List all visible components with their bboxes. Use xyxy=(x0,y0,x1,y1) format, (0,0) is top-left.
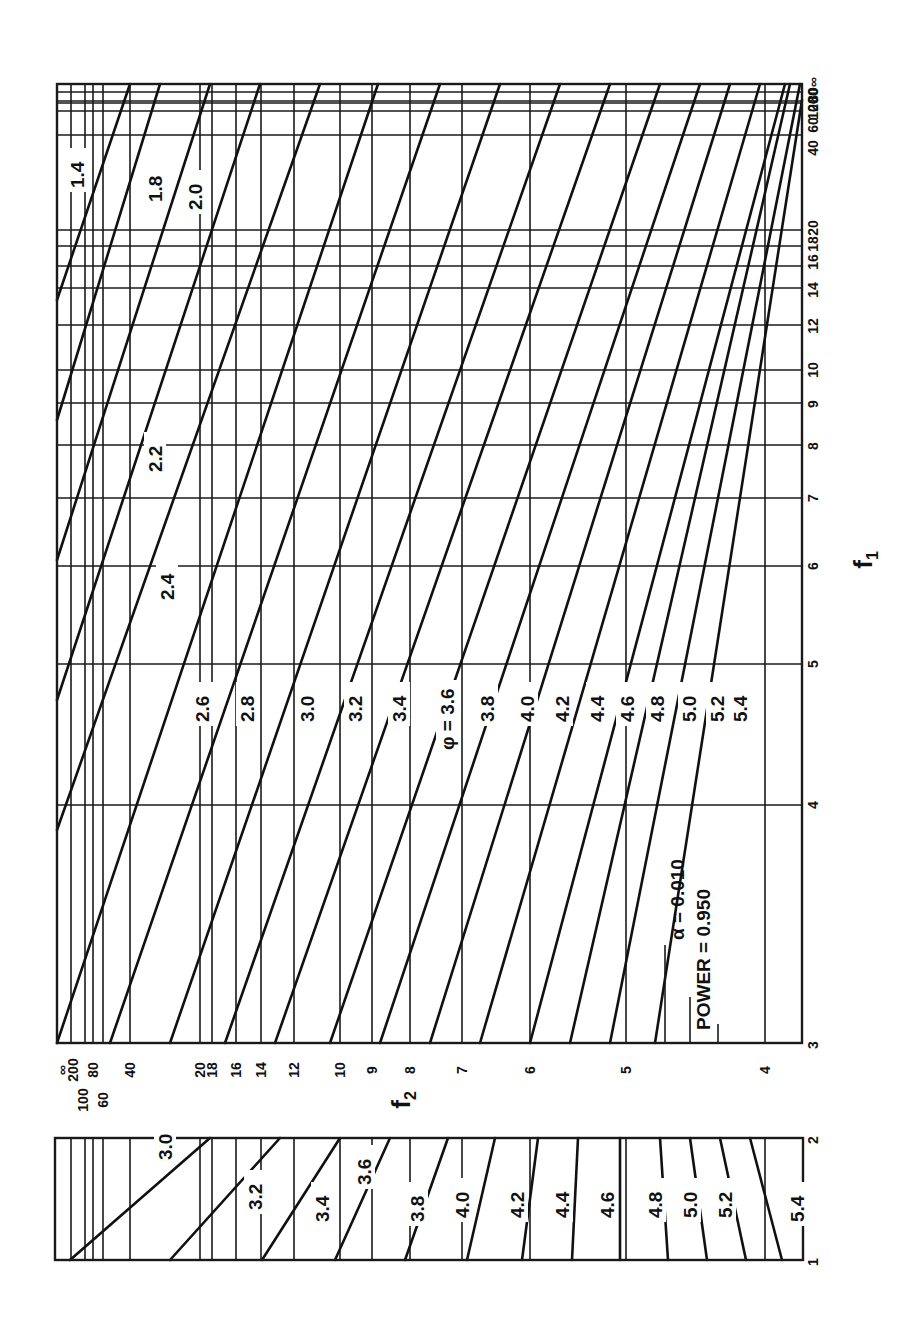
curve-label: 3.8 xyxy=(477,696,498,722)
f1-tick-label: 4 xyxy=(805,801,821,809)
f1-tick-label: 60 xyxy=(805,117,821,133)
f2-tick-label: 200 xyxy=(65,1058,81,1082)
phi-curve xyxy=(170,84,500,1043)
curve-label: 4.6 xyxy=(617,696,638,722)
f2-tick-label: 40 xyxy=(122,1062,138,1078)
curve-label: 5.0 xyxy=(680,1192,701,1218)
f2-axis-label: f2 xyxy=(386,1091,419,1109)
curve-label: 3.4 xyxy=(389,695,410,722)
f1-tick-label: 20 xyxy=(805,220,821,236)
f1-tick-label: 2 xyxy=(805,1136,821,1144)
curve-label: 3.0 xyxy=(155,1134,176,1160)
phi-curve xyxy=(57,84,378,1043)
f1-tick-label: 9 xyxy=(805,400,821,408)
curve-label: 4.2 xyxy=(552,696,573,722)
curve-label: 3.8 xyxy=(407,1196,428,1222)
curve-label: 2.8 xyxy=(237,696,258,722)
f2-tick-label: 9 xyxy=(364,1066,380,1074)
curve-label: 4.0 xyxy=(452,1192,473,1218)
lower-curve-labels: 3.03.23.43.63.84.04.24.44.64.85.05.25.4 xyxy=(154,1120,808,1226)
power-chart: 1.41.82.02.22.42.62.83.03.23.4φ = 3.63.8… xyxy=(0,0,923,1332)
curve-label: 2.2 xyxy=(145,446,166,472)
f1-tick-label: ∞ xyxy=(805,77,821,87)
curve-label: 3.0 xyxy=(297,696,318,722)
curve-label: 4.4 xyxy=(552,1191,573,1218)
phi-curve xyxy=(330,84,660,1043)
f1-tick-label: 14 xyxy=(805,282,821,298)
curve-label: 4.8 xyxy=(647,696,668,722)
f1-tick-label: 18 xyxy=(805,236,821,252)
f1-tick-label: 10 xyxy=(805,362,821,378)
curve-label: 2.0 xyxy=(185,184,206,210)
curve-label: 3.6 xyxy=(354,1159,375,1185)
f2-tick-label: 100 xyxy=(75,1088,91,1112)
f2-tick-label: 6 xyxy=(522,1066,538,1074)
f2-tick-label: 5 xyxy=(618,1066,634,1074)
f1-tick-label: 80 xyxy=(805,87,821,103)
phi-curve xyxy=(70,1138,210,1260)
f2-tick-label: 16 xyxy=(228,1062,244,1078)
main-panel: 1.41.82.02.22.42.62.83.03.23.4φ = 3.63.8… xyxy=(57,84,802,1043)
curve-label: 4.2 xyxy=(507,1192,528,1218)
f1-tick-label: 8 xyxy=(805,442,821,450)
f2-tick-label: 18 xyxy=(204,1062,220,1078)
curve-label: 4.6 xyxy=(597,1192,618,1218)
curve-label: 5.0 xyxy=(679,696,700,722)
f1-tick-label: 40 xyxy=(805,140,821,156)
curve-label: 3.2 xyxy=(245,1184,266,1210)
phi-curve xyxy=(380,84,700,1043)
legend-power: POWER = 0.950 xyxy=(693,889,714,1030)
f1-tick-label: 7 xyxy=(805,494,821,502)
f1-tick-label: 3 xyxy=(805,1041,821,1049)
f2-tick-label: 7 xyxy=(454,1066,470,1074)
curve-label: φ = 3.6 xyxy=(437,688,458,750)
f1-tick-label: 5 xyxy=(805,660,821,668)
legend: α = 0.010 POWER = 0.950 xyxy=(665,859,718,1043)
curve-label: 5.4 xyxy=(730,695,751,722)
curve-label: 2.4 xyxy=(157,573,178,600)
f1-axis-ticks: ∞200100806040201816141210987654321 xyxy=(805,77,821,1266)
curve-label: 2.6 xyxy=(192,696,213,722)
f1-tick-label: 6 xyxy=(805,562,821,570)
curve-label: 4.8 xyxy=(645,1192,666,1218)
f1-tick-label: 16 xyxy=(805,254,821,270)
f2-tick-label: 80 xyxy=(85,1062,101,1078)
curve-label: 5.4 xyxy=(787,1195,808,1222)
curve-label: 3.4 xyxy=(312,1195,333,1222)
phi-curve xyxy=(750,1138,782,1260)
f2-tick-label: 8 xyxy=(402,1066,418,1074)
f2-tick-label: 10 xyxy=(332,1062,348,1078)
f2-tick-label: 14 xyxy=(253,1062,269,1078)
phi-curve xyxy=(275,84,610,1043)
f2-tick-label: 4 xyxy=(757,1066,773,1074)
curve-label: 1.4 xyxy=(67,161,88,188)
legend-alpha: α = 0.010 xyxy=(667,859,688,940)
curve-label: 4.0 xyxy=(517,696,538,722)
phi-curve xyxy=(530,84,785,1043)
curve-label: 4.4 xyxy=(587,695,608,722)
lower-panel: 3.03.23.43.63.84.04.24.44.64.85.05.25.4 xyxy=(55,1120,808,1260)
f1-tick-label: 12 xyxy=(805,318,821,334)
curve-label: 3.2 xyxy=(345,696,366,722)
f2-tick-label: 12 xyxy=(286,1062,302,1078)
curve-label: 1.8 xyxy=(145,176,166,202)
f2-tick-label: 60 xyxy=(95,1092,111,1108)
phi-curve xyxy=(480,84,760,1043)
f1-tick-label: 1 xyxy=(805,1258,821,1266)
curve-label: 5.2 xyxy=(707,696,728,722)
curve-label: 5.2 xyxy=(715,1192,736,1218)
f1-axis-label: f1 xyxy=(848,551,881,569)
